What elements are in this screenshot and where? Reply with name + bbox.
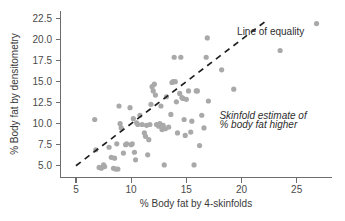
data-point [182,117,187,122]
data-point [175,130,180,135]
y-tick-label: 15.0 [33,76,53,87]
data-point [199,113,204,118]
data-point [195,88,200,93]
data-point [197,143,202,148]
data-point [173,79,178,84]
y-tick-label: 7.5 [38,139,52,150]
data-point [205,35,210,40]
y-tick-label: 20.0 [33,34,53,45]
data-point [206,98,211,103]
y-axis-tick-labels: 5.07.510.012.515.017.520.022.5 [33,13,53,171]
x-axis-title: % Body fat by 4-skinfolds [140,198,252,209]
y-tick-label: 10.0 [33,118,53,129]
data-point [231,87,236,92]
data-point [112,156,117,161]
y-tick-label: 5.0 [38,160,52,171]
scatter-plot-figure: 5.07.510.012.515.017.520.022.5 510152025… [0,0,345,221]
x-tick-label: 25 [291,184,303,195]
data-point [146,137,151,142]
data-point [219,67,224,72]
plot-canvas: 5.07.510.012.515.017.520.022.5 510152025… [0,0,345,221]
x-tick-label: 15 [181,184,193,195]
data-point [124,141,129,146]
x-tick-label: 20 [236,184,248,195]
data-point [188,129,193,134]
data-point [140,122,145,127]
data-point [201,125,206,130]
data-point [131,116,136,121]
data-point [166,124,171,129]
data-point [204,55,209,60]
data-point [130,141,135,146]
data-point [183,133,188,138]
data-point [168,112,173,117]
data-point [132,150,137,155]
data-point [158,103,163,108]
annotation-group: Line of equalitySkinfold estimate of% bo… [219,26,307,130]
data-point [92,117,97,122]
y-axis-ticks [56,19,61,166]
data-point [314,21,319,26]
y-tick-label: 17.5 [33,55,53,66]
y-tick-label: 22.5 [33,13,53,24]
data-point [153,92,158,97]
data-point [174,99,179,104]
data-point [121,151,126,156]
x-tick-label: 10 [126,184,138,195]
line-of-equality [76,19,268,165]
data-point [189,119,194,124]
data-point [162,162,167,167]
line-of-equality-label: Line of equality [237,26,304,37]
data-point [102,164,107,169]
data-point [127,105,132,110]
data-point [152,82,157,87]
data-point [186,88,191,93]
y-axis-title: % Body fat by densitometry [9,33,20,155]
data-point [115,166,120,171]
data-point [184,97,189,102]
data-point [116,103,121,108]
skinfold-note-line-2: % body fat higher [219,119,297,130]
data-point [148,102,153,107]
data-point [278,48,283,53]
data-point [114,141,119,146]
data-point [133,157,138,162]
data-point [147,122,152,127]
x-tick-label: 5 [73,184,79,195]
x-axis-ticks [76,178,297,183]
data-point [106,145,111,150]
y-tick-label: 12.5 [33,97,53,108]
data-point-group [92,21,319,172]
data-point [178,55,183,60]
x-axis-tick-labels: 510152025 [73,184,303,195]
data-point [172,55,177,60]
data-point [191,162,196,167]
data-point [145,152,150,157]
